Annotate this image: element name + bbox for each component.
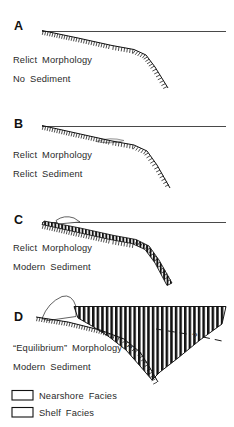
- legend-label-shelf: Shelf Facies: [39, 408, 94, 418]
- panel-c-caption-line2: Modern Sediment: [13, 262, 91, 272]
- panel-b-caption-line2: Relict Sediment: [13, 169, 83, 179]
- panel-d-caption-line1: “Equilibrium” Morphology ?: [13, 343, 132, 353]
- legend-entry-nearshore: Nearshore Facies: [12, 391, 117, 401]
- panel-d-query-symbol: ?: [192, 330, 197, 341]
- panel-c-caption-line1: Relict Morphology: [13, 243, 92, 253]
- panel-c-letter: C: [14, 213, 23, 227]
- panel-d-letter: D: [14, 310, 23, 324]
- nearshore-facies-swatch-icon: [12, 391, 33, 401]
- legend-label-nearshore: Nearshore Facies: [39, 391, 117, 401]
- legend-entry-shelf: Shelf Facies: [12, 408, 94, 418]
- panel-a-letter: A: [14, 19, 23, 33]
- panel-d-caption-line2: Modern Sediment: [13, 362, 91, 372]
- panel-b-letter: B: [14, 117, 23, 131]
- panel-a-caption-line2: No Sediment: [13, 74, 71, 84]
- panel-a-caption-line1: Relict Morphology: [13, 55, 92, 65]
- shelf-evolution-figure: A Relict Morphology No Sediment B: [0, 0, 234, 427]
- panel-b-caption-line1: Relict Morphology: [13, 150, 92, 160]
- shelf-facies-swatch-icon: [12, 408, 33, 418]
